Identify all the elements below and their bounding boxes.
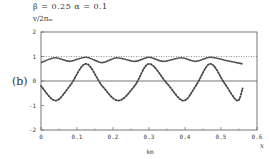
x-tick-label: 0.4 bbox=[180, 133, 191, 140]
y-tick-label: 2 bbox=[32, 28, 36, 35]
x-tick-label: 0 bbox=[39, 133, 43, 140]
lower-curve bbox=[41, 64, 243, 101]
y-tick-label: 0 bbox=[32, 77, 36, 84]
y-tick-label: -1 bbox=[29, 102, 37, 109]
x-tick-label: 0.1 bbox=[72, 133, 83, 140]
y-tick-label: -2 bbox=[29, 126, 37, 133]
x-tick-label: 0.3 bbox=[144, 133, 155, 140]
line-chart: 00.10.20.30.40.50.6-2-1012kmx bbox=[0, 0, 269, 159]
x-tick-label: 0.2 bbox=[108, 133, 119, 140]
x-tick-label: 0.5 bbox=[216, 133, 227, 140]
x-tick-label: 0.6 bbox=[252, 133, 263, 140]
x-unit-label: km bbox=[146, 148, 154, 155]
y-tick-label: 1 bbox=[32, 53, 36, 60]
upper-curve bbox=[41, 57, 243, 64]
x-axis-symbol: x bbox=[260, 142, 264, 150]
